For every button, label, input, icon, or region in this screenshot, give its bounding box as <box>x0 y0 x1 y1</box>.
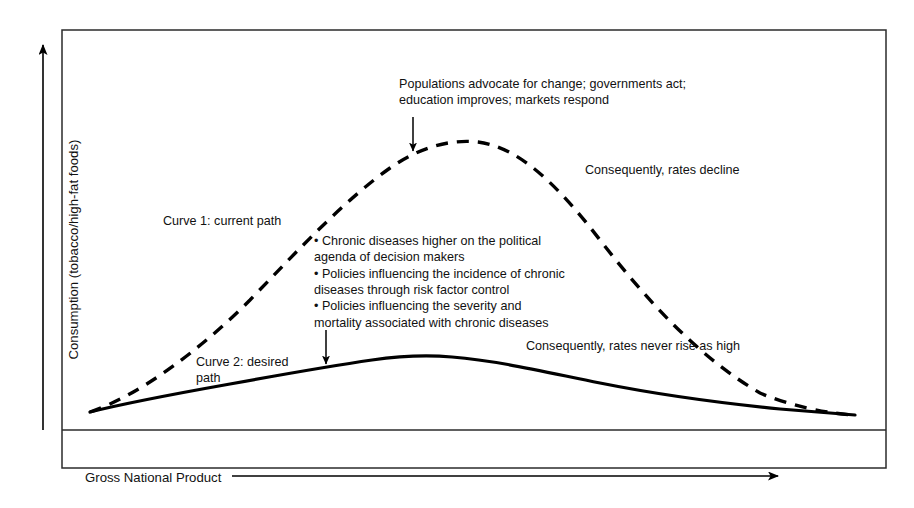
annotation-top-callout-line2: education improves; markets respond <box>399 93 609 107</box>
bullet-line-3: • Policies influencing the incidence of … <box>314 267 565 281</box>
bullet-line-2: agenda of decision makers <box>314 250 465 264</box>
annotation-bullet-list: • Chronic diseases higher on the politic… <box>314 233 565 331</box>
annotation-top-callout-line1: Populations advocate for change; governm… <box>399 77 686 91</box>
x-axis-label: Gross National Product <box>85 469 221 486</box>
curve2-label-line1: Curve 2: desired <box>196 355 288 369</box>
curve1-label: Curve 1: current path <box>163 213 281 229</box>
y-axis-label: Consumption (tobacco/high-fat foods) <box>65 90 82 410</box>
annotation-rates-never-rise: Consequently, rates never rise as high <box>526 338 740 354</box>
annotation-top-callout: Populations advocate for change; governm… <box>399 76 686 109</box>
bullet-line-1: • Chronic diseases higher on the politic… <box>314 234 541 248</box>
figure-canvas: Populations advocate for change; governm… <box>0 0 914 508</box>
bullet-line-6: mortality associated with chronic diseas… <box>314 316 549 330</box>
curve2-label: Curve 2: desiredpath <box>196 354 288 387</box>
bullet-line-5: • Policies influencing the severity and <box>314 299 521 313</box>
annotation-rates-decline: Consequently, rates decline <box>585 162 739 178</box>
bullet-line-4: diseases through risk factor control <box>314 283 509 297</box>
curve2-label-line2: path <box>196 371 221 385</box>
